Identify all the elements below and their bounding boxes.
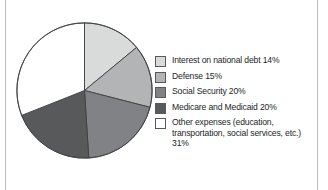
legend-swatch-other-expenses	[155, 118, 166, 129]
legend-item-other-expenses: Other expenses (education, transportatio…	[155, 117, 315, 149]
legend-label-other-expenses: Other expenses (education, transportatio…	[172, 117, 315, 149]
pie-chart-figure: Interest on national debt 14% Defense 15…	[0, 0, 328, 190]
legend-swatch-medicare-and-medicaid	[155, 103, 166, 114]
legend-item-defense: Defense 15%	[155, 71, 315, 83]
left-margin-rule	[5, 0, 6, 190]
right-margin-rule	[317, 0, 318, 190]
legend-swatch-social-security	[155, 87, 166, 98]
chart-legend: Interest on national debt 14% Defense 15…	[155, 55, 315, 152]
legend-swatch-interest-on-national-debt	[155, 56, 166, 67]
pie-slice-group	[17, 23, 152, 158]
pie-svg	[16, 20, 153, 161]
legend-label-defense: Defense 15%	[172, 71, 222, 82]
legend-label-medicare-and-medicaid: Medicare and Medicaid 20%	[172, 102, 277, 113]
legend-label-social-security: Social Security 20%	[172, 86, 246, 97]
legend-item-medicare-and-medicaid: Medicare and Medicaid 20%	[155, 102, 315, 114]
pie-chart-graphic	[16, 20, 153, 161]
legend-item-interest-on-national-debt: Interest on national debt 14%	[155, 55, 315, 67]
legend-item-social-security: Social Security 20%	[155, 86, 315, 98]
legend-label-interest-on-national-debt: Interest on national debt 14%	[172, 55, 279, 66]
legend-swatch-defense	[155, 72, 166, 83]
